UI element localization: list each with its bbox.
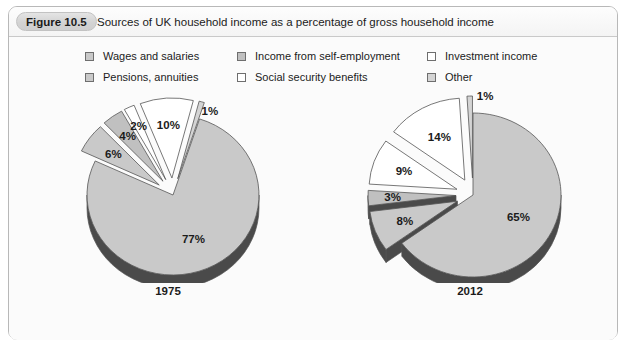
legend-swatch-icon [237, 52, 246, 61]
pie-slice-label: 8% [397, 215, 414, 227]
pie-chart-1975: 77%6%4%2%10%1% 1975 [23, 83, 313, 313]
legend-item-label: Other [445, 71, 473, 83]
pie-slice-label: 10% [157, 119, 180, 131]
pie-slice-label: 65% [507, 211, 530, 223]
pie-year-label-2012: 2012 [325, 285, 615, 297]
charts-row: 77%6%4%2%10%1% 1975 65%8%3%9%14%1% 2012 [9, 83, 617, 313]
legend-swatch-icon [237, 73, 246, 82]
chart-legend: Wages and salaries Pensions, annuities I… [9, 47, 617, 87]
legend-item: Wages and salaries [85, 47, 199, 65]
legend-swatch-icon [85, 52, 94, 61]
pie-slice-label: 14% [428, 131, 451, 143]
legend-item-label: Income from self-employment [255, 50, 400, 62]
pie-slice-label: 2% [130, 120, 147, 132]
legend-item-label: Wages and salaries [103, 50, 199, 62]
legend-swatch-icon [427, 52, 436, 61]
legend-swatch-icon [85, 73, 94, 82]
pie-slice-label: 6% [105, 148, 122, 160]
legend-item-label: Social security benefits [255, 71, 368, 83]
pie-svg-1975: 77%6%4%2%10%1% [23, 83, 313, 283]
legend-item-label: Pensions, annuities [103, 71, 198, 83]
pie-slice-label: 77% [182, 233, 205, 245]
pie-chart-2012: 65%8%3%9%14%1% 2012 [325, 83, 615, 313]
legend-item: Income from self-employment [237, 47, 400, 65]
chart-body: Wages and salaries Pensions, annuities I… [9, 37, 617, 340]
legend-item: Investment income [427, 47, 537, 65]
figure-frame: Figure 10.5 Sources of UK household inco… [8, 6, 618, 340]
pie-slice-label: 1% [477, 90, 494, 102]
legend-item-label: Investment income [445, 50, 537, 62]
figure-caption: Sources of UK household income as a perc… [97, 13, 494, 31]
legend-swatch-icon [427, 73, 436, 82]
pie-slice-label: 1% [202, 105, 219, 117]
figure-number-badge: Figure 10.5 [16, 12, 97, 31]
figure-header: Figure 10.5 Sources of UK household inco… [9, 7, 617, 37]
pie-svg-2012: 65%8%3%9%14%1% [325, 83, 615, 283]
pie-slice-label: 3% [384, 191, 401, 203]
pie-year-label-1975: 1975 [23, 285, 313, 297]
pie-slice-label: 9% [396, 165, 413, 177]
